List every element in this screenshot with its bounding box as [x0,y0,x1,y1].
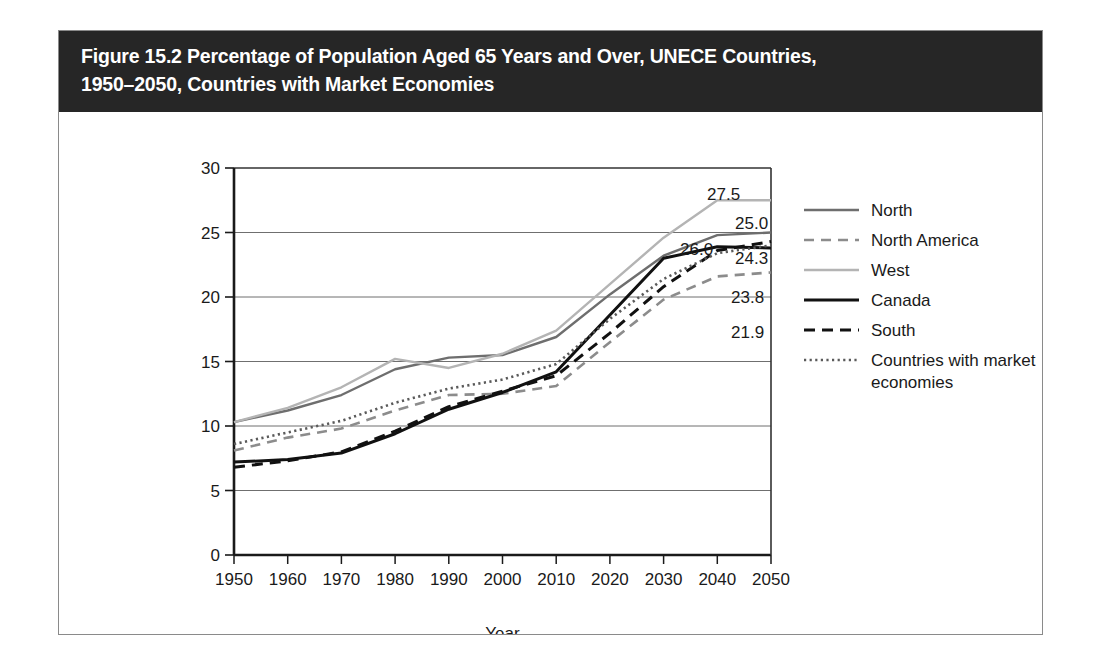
x-axis-title: Year [485,624,520,634]
x-tick-label: 2030 [645,570,683,589]
y-tick-label: 5 [211,482,220,501]
y-tick-label: 30 [201,159,220,178]
x-tick-label: 2000 [484,570,522,589]
axis-title-x: Year [485,624,520,634]
plot-area-wrapper: 051015202530 195019601970198019902000201… [59,112,1042,634]
x-tick-label: 1970 [322,570,360,589]
gridlines [234,168,771,555]
data-label: 25.0 [735,214,768,233]
x-tick-label: 2050 [752,570,790,589]
y-tick-label: 10 [201,417,220,436]
y-tick-label: 25 [201,224,220,243]
y-axis-ticks: 051015202530 [201,159,234,565]
data-label: 23.8 [731,288,764,307]
figure-title: Figure 15.2 Percentage of Population Age… [81,42,1011,98]
series-line-west [234,200,771,422]
y-tick-label: 0 [211,546,220,565]
legend: NorthNorth AmericaWestCanadaSouthCountri… [804,201,1036,392]
x-tick-label: 1950 [215,570,253,589]
legend-label: Countries with market [871,351,1036,370]
legend-label: West [871,261,910,280]
x-tick-label: 2040 [698,570,736,589]
figure-title-bar: Figure 15.2 Percentage of Population Age… [59,31,1042,112]
legend-label: North America [871,231,979,250]
y-tick-label: 15 [201,353,220,372]
x-tick-label: 2010 [537,570,575,589]
legend-label: economies [871,373,953,392]
data-labels: 27.525.026.024.323.821.9 [680,185,768,342]
data-label: 24.3 [735,249,768,268]
y-tick-label: 20 [201,288,220,307]
x-axis-ticks: 1950196019701980199020002010202020302040… [215,555,790,589]
legend-label: North [871,201,913,220]
data-label: 27.5 [707,185,740,204]
line-chart: 051015202530 195019601970198019902000201… [59,112,1042,634]
figure-container: Figure 15.2 Percentage of Population Age… [58,30,1043,635]
x-tick-label: 1980 [376,570,414,589]
x-tick-label: 1960 [269,570,307,589]
legend-label: Canada [871,291,931,310]
data-label: 21.9 [731,323,764,342]
data-label: 26.0 [680,240,713,259]
x-tick-label: 1990 [430,570,468,589]
series-line-countries-with-market-economies [234,245,771,444]
x-tick-label: 2020 [591,570,629,589]
legend-label: South [871,321,915,340]
